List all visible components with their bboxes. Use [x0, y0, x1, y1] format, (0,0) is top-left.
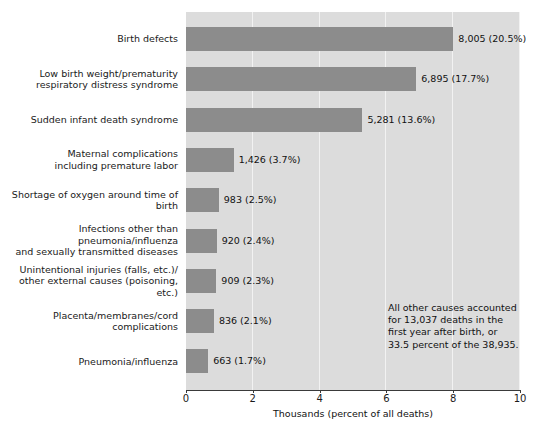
chart-annotation: All other causes accounted for 13,037 de… [388, 302, 524, 351]
x-tick-label: 10 [505, 393, 533, 405]
x-tick-label: 6 [371, 393, 401, 405]
category-label: Sudden infant death syndrome [0, 108, 182, 132]
bar [186, 269, 216, 293]
bar [186, 148, 234, 172]
bar-value-label: 836 (2.1%) [219, 309, 272, 333]
category-label-text: Shortage of oxygen around time of birth [0, 189, 182, 212]
x-axis-title: Thousands (percent of all deaths) [186, 408, 520, 419]
bar-value-label: 909 (2.3%) [221, 269, 274, 293]
bar-value-label: 5,281 (13.6%) [367, 108, 435, 132]
category-label: Maternal complications including prematu… [0, 148, 182, 172]
x-axis-line [186, 390, 521, 391]
bar-value-label: 983 (2.5%) [224, 188, 277, 212]
bar [186, 67, 416, 91]
bar [186, 27, 453, 51]
x-tick-label: 0 [171, 393, 201, 405]
x-tick-label: 4 [305, 393, 335, 405]
category-label-text: Unintentional injuries (falls, etc.)/ ot… [0, 264, 182, 299]
category-label-text: Low birth weight/prematurity respiratory… [36, 68, 182, 91]
bar [186, 349, 208, 373]
bar-value-label: 920 (2.4%) [222, 229, 275, 253]
bar [186, 309, 214, 333]
x-tick-label: 2 [238, 393, 268, 405]
category-label-text: Pneumonia/influenza [78, 356, 182, 368]
x-tick-label: 8 [438, 393, 468, 405]
category-label: Low birth weight/prematurity respiratory… [0, 67, 182, 91]
bar [186, 188, 219, 212]
bar [186, 108, 362, 132]
category-label: Shortage of oxygen around time of birth [0, 188, 182, 212]
bar-value-label: 1,426 (3.7%) [239, 148, 301, 172]
category-label-text: Infections other than pneumonia/influenz… [0, 223, 182, 258]
bar-value-label: 6,895 (17.7%) [421, 67, 489, 91]
category-label-text: Placenta/membranes/cord complications [0, 310, 182, 333]
category-label: Infections other than pneumonia/influenz… [0, 229, 182, 253]
bar [186, 229, 217, 253]
category-label: Birth defects [0, 27, 182, 51]
category-label-text: Birth defects [117, 33, 182, 45]
category-label-text: Sudden infant death syndrome [31, 114, 182, 126]
bar-value-label: 8,005 (20.5%) [458, 27, 526, 51]
bar-chart: 0246810 Birth defectsLow birth weight/pr… [0, 0, 533, 426]
category-label: Placenta/membranes/cord complications [0, 309, 182, 333]
bar-value-label: 663 (1.7%) [213, 349, 266, 373]
category-label: Unintentional injuries (falls, etc.)/ ot… [0, 269, 182, 293]
category-label: Pneumonia/influenza [0, 349, 182, 373]
category-label-text: Maternal complications including prematu… [55, 148, 182, 171]
